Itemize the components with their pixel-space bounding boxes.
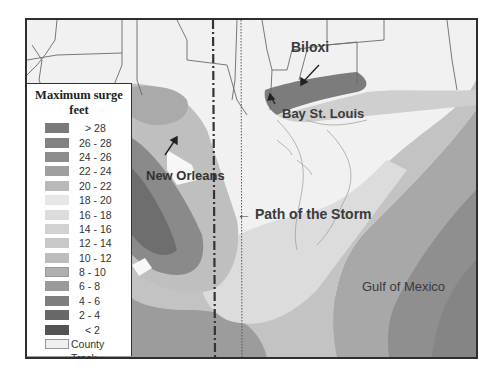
legend-swatch (45, 238, 69, 248)
legend-row: 6 - 8 (45, 279, 112, 293)
legend-label: 14 - 16 (79, 223, 112, 235)
legend-label: 22 - 24 (79, 165, 112, 177)
legend-items: > 28 26 - 28 24 - 26 22 - 24 20 - 22 18 … (45, 121, 112, 359)
legend-label: 10 - 12 (79, 252, 112, 264)
legend-row: 22 - 24 (45, 164, 112, 178)
legend-label: 2 - 4 (79, 309, 100, 321)
legend-label: 26 - 28 (79, 137, 112, 149)
legend-row-county: County (45, 337, 112, 351)
legend-title-line1: Maximum surge (27, 88, 131, 103)
legend-label: 20 - 22 (79, 180, 112, 192)
legend-label: 12 - 14 (79, 237, 112, 249)
legend-row: 2 - 4 (45, 308, 112, 322)
legend-row: 20 - 22 (45, 179, 112, 193)
legend-label: 6 - 8 (79, 280, 100, 292)
legend-row: 4 - 6 (45, 294, 112, 308)
legend-row: 16 - 18 (45, 207, 112, 221)
legend-row: < 2 (45, 322, 112, 336)
legend-row: 12 - 14 (45, 236, 112, 250)
legend-swatch (45, 166, 69, 176)
legend-title: Maximum surge feet (27, 88, 131, 118)
legend-swatch (45, 138, 69, 148)
legend-label: 8 - 10 (79, 266, 106, 278)
legend-label: > 28 (85, 122, 106, 134)
map-legend: Maximum surge feet > 28 26 - 28 24 - 26 … (27, 83, 132, 356)
label-bay-st-louis: Bay St. Louis (282, 106, 364, 121)
label-new-orleans: New Orleans (146, 168, 225, 183)
legend-swatch (45, 310, 69, 320)
legend-title-line2: feet (27, 103, 131, 118)
label-storm-path: ← Path of the Storm (237, 206, 372, 222)
legend-swatch (45, 296, 69, 306)
legend-swatch (45, 253, 69, 263)
legend-row: 10 - 12 (45, 251, 112, 265)
legend-label: 16 - 18 (79, 209, 112, 221)
legend-swatch (45, 224, 69, 234)
legend-row: 26 - 28 (45, 135, 112, 149)
surge-map: Biloxi Bay St. Louis New Orleans ← Path … (25, 18, 478, 359)
legend-swatch (45, 195, 69, 205)
legend-swatch (45, 152, 69, 162)
legend-swatch (45, 267, 69, 277)
legend-row-track: Track (45, 351, 112, 359)
legend-swatch (45, 181, 69, 191)
legend-swatch (45, 325, 69, 335)
label-biloxi: Biloxi (291, 39, 329, 55)
legend-label: 24 - 26 (79, 151, 112, 163)
legend-label: 4 - 6 (79, 295, 100, 307)
track-line-icon (45, 358, 69, 359)
legend-label-track: Track (71, 352, 97, 359)
legend-row: > 28 (45, 121, 112, 135)
legend-swatch (45, 210, 69, 220)
county-swatch (45, 339, 69, 349)
label-gulf-of-mexico: Gulf of Mexico (362, 279, 445, 294)
legend-row: 14 - 16 (45, 222, 112, 236)
legend-row: 8 - 10 (45, 265, 112, 279)
legend-row: 18 - 20 (45, 193, 112, 207)
legend-row: 24 - 26 (45, 150, 112, 164)
legend-swatch (45, 123, 69, 133)
legend-label-county: County (71, 338, 104, 350)
legend-label: 18 - 20 (79, 194, 112, 206)
legend-label: < 2 (85, 324, 100, 336)
legend-swatch (45, 281, 69, 291)
